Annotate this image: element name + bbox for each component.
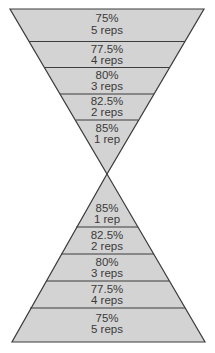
band-reps: 5 reps bbox=[91, 24, 123, 36]
bottom-band-3: 80% 3 reps bbox=[91, 256, 123, 279]
bottom-band-2: 82.5% 2 reps bbox=[91, 229, 124, 252]
band-reps: 1 rep bbox=[94, 213, 120, 225]
band-reps: 5 reps bbox=[91, 323, 123, 335]
hourglass-pyramid-diagram: 75% 5 reps 77.5% 4 reps 80% 3 reps 82.5%… bbox=[0, 0, 215, 353]
bottom-band-4: 77.5% 4 reps bbox=[91, 283, 124, 306]
bottom-band-1: 85% 1 rep bbox=[94, 202, 120, 225]
bottom-band-5: 75% 5 reps bbox=[91, 312, 123, 335]
band-reps: 3 reps bbox=[91, 267, 123, 279]
band-reps: 3 reps bbox=[91, 80, 123, 92]
band-reps: 2 reps bbox=[91, 106, 123, 118]
top-band-1: 75% 5 reps bbox=[91, 12, 123, 36]
band-reps: 2 reps bbox=[91, 240, 123, 252]
band-reps: 4 reps bbox=[91, 54, 123, 66]
band-reps: 4 reps bbox=[91, 294, 123, 306]
top-band-3: 80% 3 reps bbox=[91, 69, 123, 92]
band-percent: 75% bbox=[95, 12, 118, 24]
top-band-5: 85% 1 rep bbox=[94, 122, 120, 145]
top-band-2: 77.5% 4 reps bbox=[91, 43, 124, 66]
top-band-4: 82.5% 2 reps bbox=[91, 95, 124, 118]
band-reps: 1 rep bbox=[94, 133, 120, 145]
